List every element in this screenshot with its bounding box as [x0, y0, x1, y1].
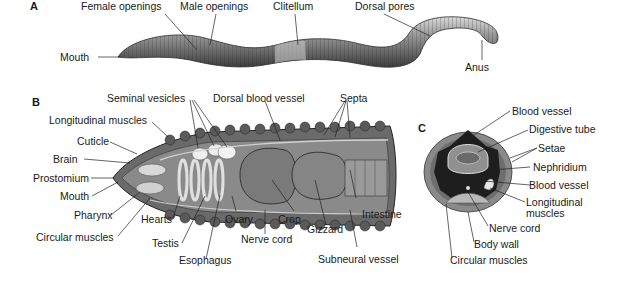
label-gizzard: Gizzard	[307, 223, 343, 235]
label-septa: Septa	[340, 92, 367, 104]
label-clitellum: Clitellum	[273, 0, 313, 12]
label-digestive-tube: Digestive tube	[529, 123, 596, 135]
label-nerve-cord-c: Nerve cord	[489, 222, 540, 234]
label-crop: Crop	[278, 213, 301, 225]
label-dorsal-blood-vessel: Dorsal blood vessel	[213, 92, 305, 104]
label-intestine: Intestine	[362, 208, 402, 220]
worm-external-view	[118, 17, 498, 67]
label-mouth-b: Mouth	[60, 190, 89, 202]
label-hearts: Hearts	[141, 213, 172, 225]
label-longitudinal-muscles-c-line2: muscles	[526, 207, 565, 219]
label-brain: Brain	[53, 153, 78, 165]
panel-c-letter: C	[418, 122, 426, 134]
label-body-wall: Body wall	[474, 238, 519, 250]
label-dorsal-pores: Dorsal pores	[355, 0, 415, 12]
label-seminal-vesicles: Seminal vesicles	[107, 92, 185, 104]
panel-a-letter: A	[30, 0, 38, 12]
label-longitudinal-muscles-b: Longitudinal muscles	[49, 114, 147, 126]
label-blood-vessel-bottom: Blood vessel	[529, 179, 589, 191]
label-cuticle: Cuticle	[77, 135, 109, 147]
label-female-openings: Female openings	[81, 0, 162, 12]
label-circular-muscles-c: Circular muscles	[450, 254, 528, 266]
label-prostomium: Prostomium	[33, 172, 89, 184]
label-ovary: Ovary	[225, 213, 253, 225]
label-blood-vessel-top: Blood vessel	[512, 105, 572, 117]
label-esophagus: Esophagus	[179, 254, 232, 266]
label-nephridium: Nephridium	[533, 161, 587, 173]
label-male-openings: Male openings	[180, 0, 248, 12]
label-circular-muscles-b: Circular muscles	[36, 231, 114, 243]
label-anus: Anus	[465, 61, 489, 73]
label-mouth-a: Mouth	[60, 51, 89, 63]
label-pharynx: Pharynx	[74, 209, 113, 221]
worm-cross-section	[424, 130, 512, 212]
label-testis: Testis	[152, 237, 179, 249]
label-nerve-cord-b: Nerve cord	[241, 233, 292, 245]
label-subneural-vessel: Subneural vessel	[318, 253, 399, 265]
panel-b-letter: B	[32, 96, 40, 108]
label-setae: Setae	[538, 142, 565, 154]
